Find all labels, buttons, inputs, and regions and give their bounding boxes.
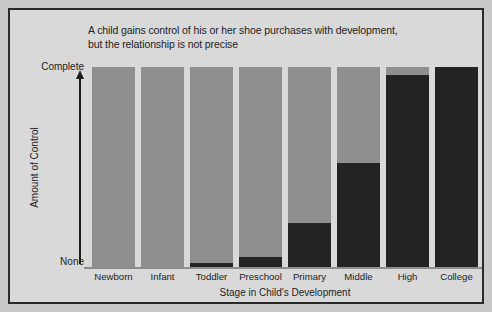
bar-college — [435, 67, 478, 267]
x-tick-middle: Middle — [337, 271, 380, 282]
x-axis-line — [84, 267, 482, 269]
x-tick-preschool: Preschool — [239, 271, 282, 282]
bar-segment-child-control — [239, 257, 282, 267]
chart-frame: A child gains control of his or her shoe… — [8, 8, 484, 304]
x-axis-tick-labels: NewbornInfantToddlerPreschoolPrimaryMidd… — [92, 271, 478, 282]
x-tick-infant: Infant — [141, 271, 184, 282]
bar-segment-child-control — [288, 223, 331, 267]
bar-infant — [141, 67, 184, 267]
y-axis-arrow-icon — [79, 78, 81, 264]
bar-middle — [337, 67, 380, 267]
y-axis-tick-complete: Complete — [24, 61, 84, 72]
bar-segment-child-control — [435, 67, 478, 267]
bar-toddler — [190, 67, 233, 267]
chart-title-line-1: A child gains control of his or her shoe… — [88, 24, 398, 36]
chart-title: A child gains control of his or her shoe… — [88, 24, 418, 51]
y-axis-tick-none: None — [24, 256, 84, 267]
x-tick-newborn: Newborn — [92, 271, 135, 282]
bar-preschool — [239, 67, 282, 267]
chart-figure: A child gains control of his or her shoe… — [0, 0, 492, 312]
x-tick-high: High — [386, 271, 429, 282]
x-axis-title: Stage in Child's Development — [92, 287, 478, 298]
x-tick-college: College — [435, 271, 478, 282]
bar-group — [92, 67, 478, 267]
bar-high — [386, 67, 429, 267]
chart-canvas: A child gains control of his or her shoe… — [10, 10, 482, 302]
bar-segment-child-control — [337, 163, 380, 267]
plot-area — [92, 67, 478, 267]
x-tick-toddler: Toddler — [190, 271, 233, 282]
bar-segment-child-control — [386, 75, 429, 267]
x-tick-primary: Primary — [288, 271, 331, 282]
y-axis-title: Amount of Control — [29, 108, 40, 228]
bar-primary — [288, 67, 331, 267]
chart-title-line-2: but the relationship is not precise — [88, 38, 418, 52]
bar-newborn — [92, 67, 135, 267]
